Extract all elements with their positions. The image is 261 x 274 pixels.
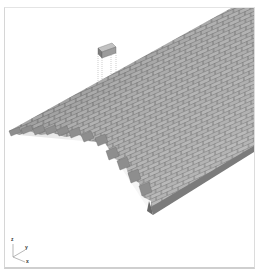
- floating-brick[interactable]: [98, 43, 116, 58]
- 3d-viewport[interactable]: [4, 7, 255, 269]
- y-axis-label: y: [25, 245, 28, 250]
- axis-triad: z y x: [6, 236, 36, 266]
- vault-model[interactable]: [4, 7, 255, 269]
- z-axis-label: z: [11, 237, 14, 242]
- x-axis-label: x: [26, 259, 29, 264]
